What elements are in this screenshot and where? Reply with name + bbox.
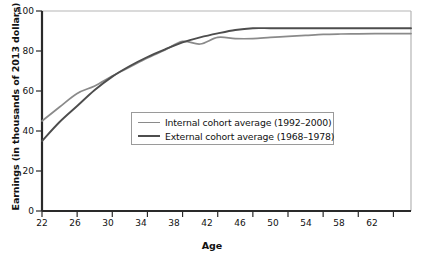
x-tick-label-62: 62 — [357, 218, 387, 228]
y-tick-label-80: 80 — [8, 46, 34, 56]
legend-entry-external: External cohort average (1968–1978) — [138, 129, 334, 143]
y-tick-label-40: 40 — [8, 126, 34, 136]
x-tick-label-50: 50 — [258, 218, 288, 228]
x-tick-label-26: 26 — [60, 218, 90, 228]
y-tick-label-100: 100 — [8, 6, 34, 16]
plot-frame — [42, 11, 411, 211]
x-tick-label-30: 30 — [93, 218, 123, 228]
x-tick-label-22: 22 — [27, 218, 57, 228]
x-tick-label-46: 46 — [225, 218, 255, 228]
earnings-by-age-line-chart: Earnings (in thousands of 2013 dollars) … — [0, 0, 424, 262]
y-tick-label-0: 0 — [8, 206, 34, 216]
legend-swatch-internal-icon — [138, 122, 160, 123]
legend-label-external: External cohort average (1968–1978) — [165, 131, 334, 142]
x-axis-title: Age — [0, 240, 424, 251]
x-tick-label-34: 34 — [126, 218, 156, 228]
legend-entry-internal: Internal cohort average (1992–2000) — [138, 115, 332, 129]
legend-swatch-external-icon — [138, 135, 160, 137]
x-tick-label-58: 58 — [324, 218, 354, 228]
y-tick-label-20: 20 — [8, 166, 34, 176]
series-line-internal-cohort — [42, 34, 411, 121]
y-axis-title: Earnings (in thousands of 2013 dollars) — [10, 11, 21, 211]
chart-legend: Internal cohort average (1992–2000) Exte… — [131, 112, 334, 145]
x-tick-label-38: 38 — [159, 218, 189, 228]
y-tick-label-60: 60 — [8, 86, 34, 96]
x-tick-label-54: 54 — [291, 218, 321, 228]
legend-label-internal: Internal cohort average (1992–2000) — [165, 117, 332, 128]
x-tick-label-42: 42 — [192, 218, 222, 228]
